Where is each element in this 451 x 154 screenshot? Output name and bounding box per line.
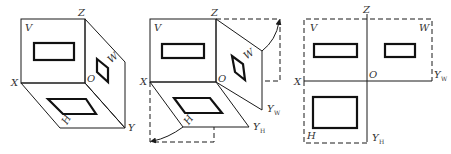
- label-h: H: [306, 130, 316, 141]
- diagram-unfolding: V Z W X O H Y W Y H: [139, 7, 281, 142]
- label-yw-sub: W: [441, 75, 448, 82]
- v-projection: [34, 43, 74, 60]
- label-o: O: [218, 73, 226, 84]
- w-projection: [232, 56, 245, 80]
- label-yh-sub: H: [379, 138, 384, 145]
- v-projection: [314, 44, 357, 57]
- v-projection: [162, 44, 204, 58]
- h-rotation-arrow: [153, 127, 183, 141]
- label-x: X: [293, 76, 302, 87]
- label-o: O: [369, 69, 377, 80]
- h-projection: [174, 98, 222, 113]
- projection-diagram: V Z W X O H Y V Z W X O H Y W Y H: [0, 0, 451, 154]
- label-v: V: [310, 22, 319, 33]
- w-plane: [216, 19, 262, 110]
- h-projection: [313, 97, 357, 128]
- h-projection: [48, 99, 96, 114]
- label-z: Z: [77, 7, 86, 18]
- label-o: O: [87, 73, 95, 84]
- label-w: W: [241, 46, 256, 61]
- diagram-3d-box: V Z W X O H Y: [10, 7, 136, 133]
- h-plane: [150, 82, 249, 127]
- h-plane: [21, 83, 125, 128]
- vw-outline: [304, 19, 432, 81]
- label-v: V: [154, 22, 163, 33]
- label-w: W: [105, 49, 120, 64]
- label-x: X: [10, 77, 19, 88]
- label-z: Z: [362, 4, 371, 15]
- label-z: Z: [210, 7, 219, 18]
- w-rotation-arrow: [262, 22, 279, 51]
- label-v: V: [25, 22, 34, 33]
- w-projection: [97, 59, 108, 82]
- label-w: W: [419, 22, 430, 33]
- label-yw-sub: W: [274, 109, 281, 116]
- label-yh-sub: H: [260, 127, 265, 134]
- label-x: X: [139, 76, 148, 87]
- diagram-unfolded: V Z W X O H Y W Y H: [293, 4, 448, 145]
- w-projection: [385, 44, 415, 57]
- label-h: H: [181, 113, 196, 128]
- label-y: Y: [128, 122, 136, 133]
